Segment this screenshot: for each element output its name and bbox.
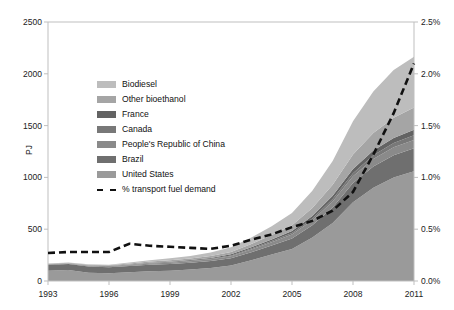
y-axis-right-tick-label: 2.0% [421,69,454,79]
y-axis-left-tick-label: 0 [4,276,42,286]
legend-item-label: Canada [122,125,152,134]
y-axis-right-tick-label: 0.5% [421,224,454,234]
legend-item-label: Biodiesel [122,80,157,89]
legend-item-label: People's Republic of China [122,140,225,149]
x-axis-tick-label: 2002 [211,289,251,299]
chart-legend: BiodieselOther bioethanolFranceCanadaPeo… [97,77,225,197]
legend-item[interactable]: Biodiesel [97,77,225,92]
legend-item[interactable]: Other bioethanol [97,92,225,107]
y-axis-left-title: PJ [20,143,38,157]
legend-item[interactable]: Canada [97,122,225,137]
y-axis-left-tick-label: 500 [4,224,42,234]
y-axis-left-tick-label: 1000 [4,172,42,182]
chart-container: PJ 05001000150020002500 0.0%0.5%1.0%1.5%… [0,0,454,310]
legend-color-swatch-icon [97,156,116,163]
y-axis-left-tick-label: 1500 [4,121,42,131]
y-axis-right-tick-label: 1.0% [421,172,454,182]
y-axis-right-tick-label: 0.0% [421,276,454,286]
legend-color-swatch-icon [97,96,116,103]
x-axis-tick-label: 2005 [272,289,312,299]
legend-dashed-line-icon [97,189,116,191]
x-axis-tick-label: 1996 [89,289,129,299]
y-axis-left-tick-label: 2500 [4,17,42,27]
legend-item[interactable]: France [97,107,225,122]
legend-item-label: France [122,110,149,119]
legend-item-label: Brazil [122,155,144,164]
legend-item[interactable]: % transport fuel demand [97,182,225,197]
x-axis-tick-label: 1999 [150,289,190,299]
legend-item-label: % transport fuel demand [122,185,216,194]
legend-color-swatch-icon [97,81,116,88]
legend-color-swatch-icon [97,126,116,133]
legend-item-label: Other bioethanol [122,95,186,104]
legend-item-label: United States [122,170,174,179]
x-axis-tick-label: 2008 [333,289,373,299]
legend-item[interactable]: United States [97,167,225,182]
y-axis-right-tick-label: 2.5% [421,17,454,27]
legend-item[interactable]: People's Republic of China [97,137,225,152]
chart-plot-area [0,0,454,310]
x-axis-tick-label: 1993 [28,289,68,299]
x-axis-tick-label: 2011 [394,289,434,299]
y-axis-right-tick-label: 1.5% [421,121,454,131]
legend-color-swatch-icon [97,141,116,148]
legend-color-swatch-icon [97,111,116,118]
y-axis-left-tick-label: 2000 [4,69,42,79]
legend-color-swatch-icon [97,171,116,178]
legend-item[interactable]: Brazil [97,152,225,167]
